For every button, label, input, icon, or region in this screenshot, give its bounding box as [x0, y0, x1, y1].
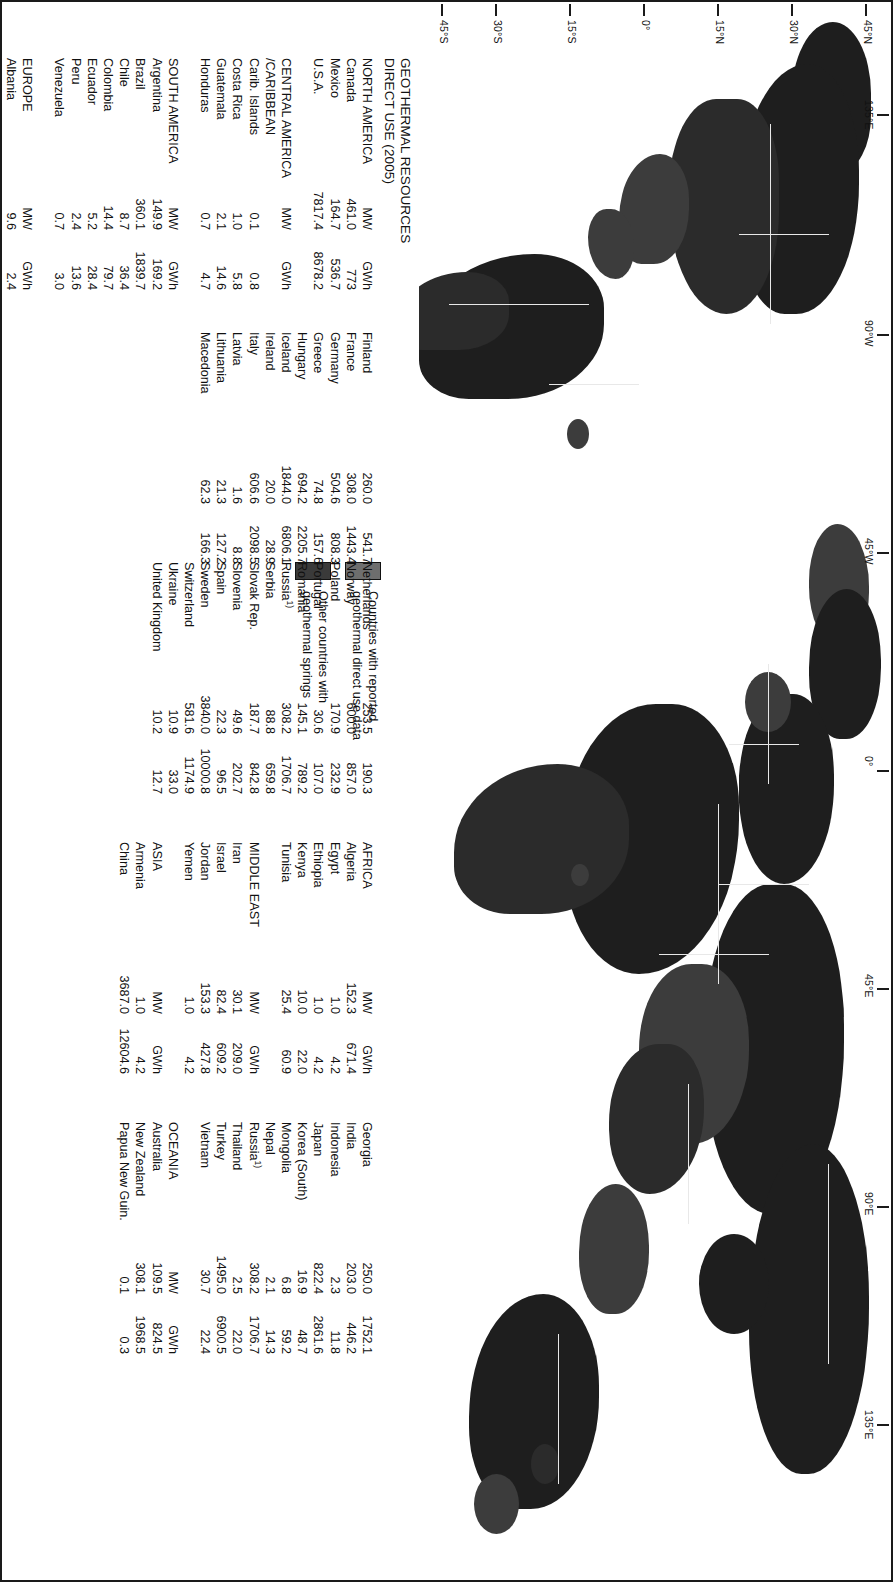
- value-gwh: 536.7: [326, 230, 342, 290]
- country-name: Ukraine: [165, 562, 181, 680]
- value-mw: 1.0: [326, 960, 342, 1014]
- value-gwh: 190.3: [359, 734, 375, 794]
- value-mw: 7817.4: [310, 176, 326, 230]
- region-header-row-2: /CARIBBEAN: [262, 58, 278, 290]
- value-gwh: 2.4: [3, 230, 19, 290]
- table-row: Jordan153.3427.8: [197, 842, 213, 1074]
- value-gwh: 541.7: [359, 504, 375, 564]
- table-row: Greece74.8157.6: [310, 332, 326, 564]
- table-row: Argentina149.9169.2: [148, 58, 164, 290]
- value-gwh: 1968.5: [132, 1294, 148, 1354]
- value-mw: 260.0: [359, 450, 375, 504]
- value-gwh: 96.5: [213, 734, 229, 794]
- table-row: Mongolia6.859.2: [278, 1122, 294, 1354]
- country-name: Hungary: [294, 332, 310, 450]
- value-gwh: 11.8: [326, 1294, 342, 1354]
- table-row: Guatemala2.114.6: [213, 58, 229, 290]
- country-name: Iran: [229, 842, 245, 960]
- country-name: Netherlands: [359, 562, 375, 680]
- country-name: Venezuela: [51, 58, 67, 176]
- value-gwh: 127.2: [213, 504, 229, 564]
- latitude-tick: [866, 4, 868, 16]
- value-mw: 3840.0: [197, 680, 213, 734]
- country-name: Portugal: [310, 562, 326, 680]
- country-name: Brazil: [132, 58, 148, 176]
- block-spacer: [181, 1122, 197, 1354]
- country-name: Spain: [213, 562, 229, 680]
- value-gwh: 28.9: [262, 504, 278, 564]
- value-mw: 600.0: [343, 680, 359, 734]
- table-row: Armenia1.04.2: [132, 842, 148, 1074]
- value-gwh: 107.0: [310, 734, 326, 794]
- value-gwh: 48.7: [294, 1294, 310, 1354]
- table-row: Indonesia2.311.8: [326, 1122, 342, 1354]
- table-row: Ireland20.028.9: [262, 332, 278, 564]
- landmass: [531, 1444, 559, 1484]
- country-name: Mongolia: [278, 1122, 294, 1240]
- country-name: Chile: [116, 58, 132, 176]
- country-border: [558, 1334, 559, 1484]
- unit-mw-header: MW: [19, 176, 35, 230]
- region-name: OCEANIA: [165, 1122, 181, 1240]
- value-mw: 145.1: [294, 680, 310, 734]
- country-name: Indonesia: [326, 1122, 342, 1240]
- longitude-tick: [877, 988, 889, 990]
- country-name: Norway: [343, 562, 359, 680]
- table-row: Portugal30.6107.0: [310, 562, 326, 794]
- value-gwh: 789.2: [294, 734, 310, 794]
- value-gwh: 12.7: [148, 734, 164, 794]
- value-mw: 0.7: [197, 176, 213, 230]
- country-name: Australia: [148, 1122, 164, 1240]
- landmass: [571, 864, 589, 886]
- country-name: Austria: [0, 58, 3, 176]
- value-mw: 170.9: [326, 680, 342, 734]
- region-name: EUROPE: [19, 58, 35, 176]
- country-name: Colombia: [100, 58, 116, 176]
- unit-gwh-header: GWh: [359, 1014, 375, 1074]
- block-spacer: [165, 842, 181, 1074]
- country-name: Tunisia: [278, 842, 294, 960]
- longitude-tick-label: 135°E: [863, 100, 875, 130]
- value-gwh: 22.0: [229, 1294, 245, 1354]
- longitude-tick: [877, 770, 889, 772]
- block-spacer: [181, 58, 197, 290]
- landmass: [419, 272, 509, 350]
- world-map: 45°N30°N15°N0°15°S30°S45°S135°E90°W45°W0…: [419, 4, 889, 1578]
- country-name: Argentina: [148, 58, 164, 176]
- landmass: [454, 764, 629, 914]
- value-gwh: 0.3: [116, 1294, 132, 1354]
- value-gwh: 10000.8: [197, 734, 213, 794]
- region-name: MIDDLE EAST: [246, 842, 262, 960]
- region-header-row: EUROPEMWGWh: [19, 58, 35, 290]
- value-mw: 1495.0: [213, 1240, 229, 1294]
- value-mw: 360.1: [132, 176, 148, 230]
- value-mw: 461.0: [343, 176, 359, 230]
- country-name: Russia1): [246, 1122, 262, 1240]
- value-mw: 2.3: [326, 1240, 342, 1294]
- value-mw: 0.1: [246, 176, 262, 230]
- block-spacer: [35, 58, 51, 290]
- value-mw: 2.5: [229, 1240, 245, 1294]
- region-header-row: MIDDLE EASTMWGWh: [246, 842, 262, 1074]
- value-mw: 308.0: [343, 450, 359, 504]
- table-row: Colombia14.479.7: [100, 58, 116, 290]
- value-mw: 30.7: [197, 1240, 213, 1294]
- region-header-row: OCEANIAMWGWh: [165, 1122, 181, 1354]
- table-row: Albania9.62.4: [3, 58, 19, 290]
- value-mw: 187.7: [246, 680, 262, 734]
- latitude-tick: [570, 4, 572, 16]
- geothermal-figure: 45°N30°N15°N0°15°S30°S45°S135°E90°W45°W0…: [0, 0, 893, 1582]
- country-name: Thailand: [229, 1122, 245, 1240]
- value-mw: 0.7: [51, 176, 67, 230]
- country-border: [449, 304, 589, 305]
- value-mw: 1.0: [132, 960, 148, 1014]
- value-gwh: 79.7: [100, 230, 116, 290]
- table-row: Georgia250.01752.1: [359, 1122, 375, 1354]
- country-name: Yemen: [181, 842, 197, 960]
- table-row: Japan822.42861.6: [310, 1122, 326, 1354]
- value-mw: 2.4: [67, 176, 83, 230]
- value-mw: 1.6: [229, 450, 245, 504]
- country-name: Israel: [213, 842, 229, 960]
- landmass: [609, 1044, 704, 1194]
- country-name: Poland: [326, 562, 342, 680]
